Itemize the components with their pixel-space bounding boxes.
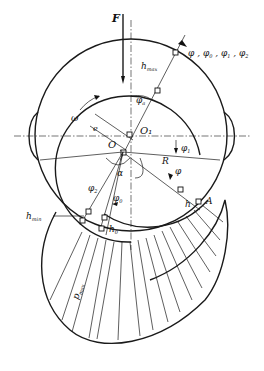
pressure-envelope: [42, 200, 228, 343]
h-label: h: [185, 199, 191, 209]
e-label: e: [93, 124, 98, 133]
hmax-label: hmax: [141, 61, 158, 72]
pmax-label: pmax: [70, 282, 86, 301]
omega-label: ω: [71, 113, 79, 123]
angle-list-label: φ , φ0 , φ1 , φ2: [188, 48, 249, 59]
pressure-rays: [50, 205, 223, 340]
O1-label: O₁: [140, 125, 152, 136]
phi-1-label: φ1: [181, 143, 191, 154]
phi-a-label: φa: [136, 95, 145, 106]
h0-label: h0: [109, 224, 119, 235]
hmin-label: hmin: [26, 211, 41, 222]
O-label: O: [108, 139, 116, 150]
A-label: A: [205, 196, 213, 206]
bearing-diagram: F ω e O₁ O hmax φ , φ0 , φ1 , φ2 φa φ1 R…: [0, 0, 264, 371]
R-label: R: [161, 156, 169, 166]
journal-center-point: [127, 132, 132, 137]
phi-0-label: φ0: [113, 193, 123, 204]
phi-label: φ: [175, 166, 182, 176]
phi-2-label: φ2: [88, 183, 98, 194]
force-label: F: [111, 12, 121, 25]
